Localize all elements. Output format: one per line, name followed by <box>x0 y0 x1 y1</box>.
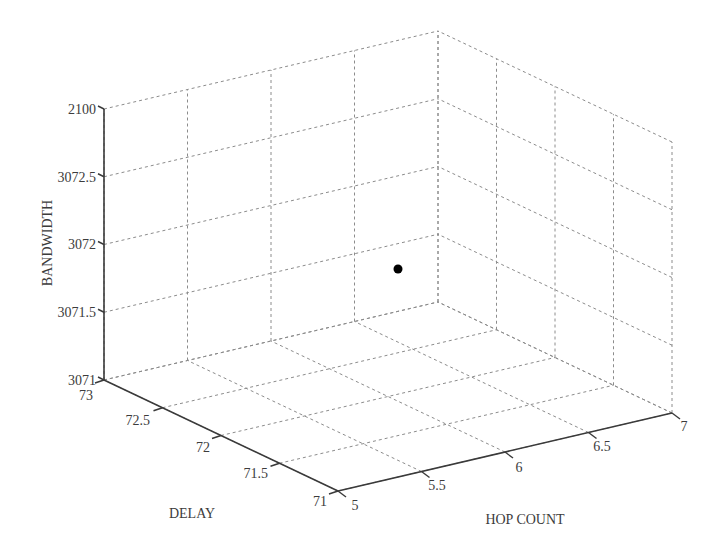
tick-labels: 3071 3071.5 3072 3072.5 2100 73 72.5 72 … <box>58 102 688 513</box>
z-tick-label: 3071 <box>68 373 96 388</box>
x-tick-label: 5.5 <box>428 478 446 493</box>
z-tick <box>98 106 104 109</box>
y-tick-label: 72.5 <box>126 413 151 428</box>
y-tick <box>329 491 338 494</box>
x-axis-title: HOP COUNT <box>485 512 565 527</box>
x-tick <box>589 433 597 439</box>
y-axis-title: DELAY <box>169 506 215 521</box>
z-tick-label: 3072 <box>68 237 96 252</box>
x-tick-label: 6 <box>516 460 523 475</box>
x-tick <box>338 491 346 497</box>
z-tick-label: 2100 <box>68 102 96 117</box>
floor-grid-line <box>355 322 589 433</box>
x-tick-label: 5 <box>352 498 359 513</box>
x-tick <box>505 452 513 458</box>
y-tick-label: 71.5 <box>244 466 269 481</box>
z-tick <box>98 242 104 245</box>
y-tick <box>271 463 280 466</box>
x-tick <box>672 413 680 419</box>
y-tick <box>95 380 104 383</box>
y-tick <box>212 436 221 439</box>
data-point[interactable] <box>394 265 403 274</box>
3d-scatter-plot: 3071 3071.5 3072 3072.5 2100 73 72.5 72 … <box>0 0 721 550</box>
z-tick <box>98 377 104 380</box>
floor-grid-line <box>221 358 555 436</box>
y-tick-label: 71 <box>313 494 327 509</box>
y-tick-label: 73 <box>79 388 93 403</box>
y-tick-label: 72 <box>196 440 210 455</box>
floor-grid-line <box>280 385 614 463</box>
z-tick-label: 3071.5 <box>58 305 97 320</box>
z-tick <box>98 174 104 177</box>
z-tick-label: 3072.5 <box>58 170 97 185</box>
grid-lines <box>104 31 672 491</box>
y-tick <box>154 408 163 411</box>
x-tick <box>422 472 430 478</box>
x-tick-label: 6.5 <box>593 439 611 454</box>
floor-grid-line <box>271 341 505 452</box>
z-tick <box>98 309 104 312</box>
z-axis-title: BANDWIDTH <box>40 200 55 286</box>
x-tick-label: 7 <box>681 419 688 434</box>
